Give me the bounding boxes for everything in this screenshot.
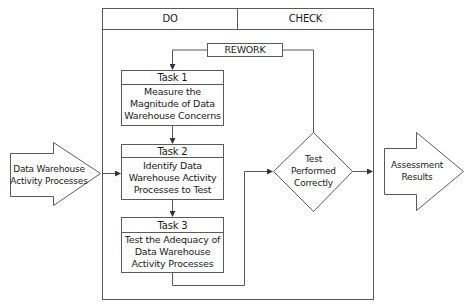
- decision-to-rework-connector: [283, 50, 314, 133]
- check-phase-label: CHECK: [238, 9, 373, 29]
- task-2-line-1: Identify Data: [122, 160, 223, 172]
- input-arrow-line-2: Activity Processes: [8, 175, 90, 187]
- task-2-line-3: Processes to Test: [122, 184, 223, 196]
- task-1-title: Task 1: [122, 71, 223, 84]
- decision-line-1: Test: [278, 153, 349, 165]
- do-phase-label: DO: [103, 9, 237, 29]
- task-1-line-1: Measure the: [122, 86, 223, 98]
- task-2-title: Task 2: [122, 145, 223, 158]
- task-3-title: Task 3: [122, 219, 223, 232]
- decision-line-3: Correctly: [278, 177, 349, 189]
- output-arrow-label: Assessment Results: [384, 159, 450, 183]
- output-arrow-line-2: Results: [384, 171, 450, 183]
- input-arrow-label: Data Warehouse Activity Processes: [8, 163, 90, 187]
- task-3-line-3: Activity Processes: [122, 258, 223, 270]
- decision-label: Test Performed Correctly: [278, 153, 349, 189]
- task-2-line-2: Warehouse Activity: [122, 172, 223, 184]
- output-arrow-line-1: Assessment: [384, 159, 450, 171]
- task-1-line-2: Magnitude of Data: [122, 98, 223, 110]
- rework-label: REWORK: [208, 44, 282, 56]
- task-2-description: Identify Data Warehouse Activity Process…: [122, 160, 223, 196]
- task-3-line-2: Data Warehouse: [122, 246, 223, 258]
- decision-line-2: Performed: [278, 165, 349, 177]
- task-1-line-3: Warehouse Concerns: [122, 110, 223, 122]
- task-3-description: Test the Adequacy of Data Warehouse Acti…: [122, 234, 223, 270]
- task-3-line-1: Test the Adequacy of: [122, 234, 223, 246]
- input-arrow-line-1: Data Warehouse: [8, 163, 90, 175]
- task-1-description: Measure the Magnitude of Data Warehouse …: [122, 86, 223, 122]
- rework-to-task1-connector: [173, 50, 208, 69]
